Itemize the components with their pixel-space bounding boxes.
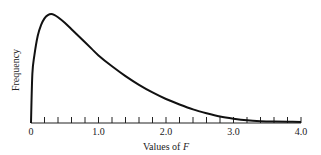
x-tick-label: 2.0 xyxy=(160,126,173,137)
x-tick-label: 3.0 xyxy=(227,126,240,137)
f-distribution-chart: 01.02.03.04.0 Values of F Frequency xyxy=(0,0,321,155)
x-axis-tick-labels: 01.02.03.04.0 xyxy=(29,126,308,137)
y-axis-title: Frequency xyxy=(10,49,21,91)
x-axis-title: Values of F xyxy=(143,141,190,152)
chart-canvas: 01.02.03.04.0 Values of F Frequency xyxy=(0,0,321,155)
x-tick-label: 1.0 xyxy=(92,126,105,137)
x-tick-label: 4.0 xyxy=(295,126,308,137)
density-curve xyxy=(31,14,301,123)
x-tick-label: 0 xyxy=(29,126,34,137)
